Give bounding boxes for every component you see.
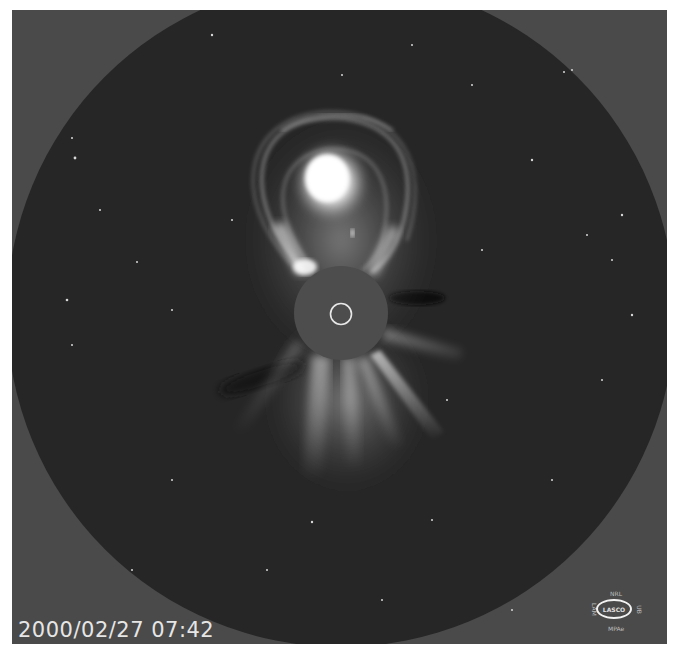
logo-lasco-text: LASCO: [603, 606, 625, 613]
logo-oval: LASCO: [596, 599, 632, 619]
logo-mpae-text: MPAe: [608, 625, 624, 632]
coronagraph-image: 2000/02/27 07:42 NRL LAM LASCO UB MPAe: [12, 10, 667, 644]
lasco-logo: NRL LAM LASCO UB MPAe: [588, 590, 644, 638]
logo-nrl-text: NRL: [610, 590, 622, 597]
logo-right-text: UB: [636, 605, 643, 614]
coronagraph-scene: [12, 10, 667, 644]
occulter-disk: [294, 266, 388, 360]
timestamp-label: 2000/02/27 07:42: [18, 618, 214, 642]
